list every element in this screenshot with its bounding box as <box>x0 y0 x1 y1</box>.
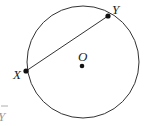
point-y <box>105 13 110 18</box>
label-y: Y <box>112 2 121 17</box>
label-o: O <box>78 49 88 64</box>
point-x <box>23 68 28 73</box>
center-point-o <box>80 64 85 69</box>
chord-xy <box>26 16 108 71</box>
partial-label: Y <box>0 109 7 124</box>
circle-diagram: Y X O Y <box>0 0 147 126</box>
label-x: X <box>12 67 22 82</box>
